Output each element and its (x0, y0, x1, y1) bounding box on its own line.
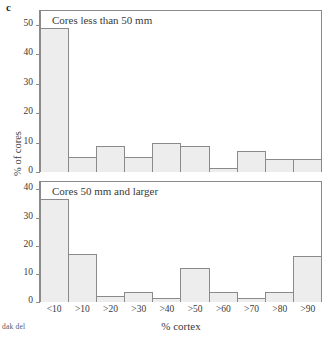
bar (152, 298, 181, 302)
y-tick-label: 30 (24, 77, 34, 87)
bar (68, 254, 97, 302)
x-axis-tick-labels: <10>10>20>30>40>50>60>70>80>90 (40, 304, 322, 314)
bar (293, 159, 322, 172)
x-tick-label: >40 (153, 304, 181, 314)
bar-series-bottom (40, 181, 322, 302)
x-tick-label: >20 (96, 304, 124, 314)
credit-text: dak del (2, 322, 25, 331)
bar (40, 199, 69, 302)
y-tick-label: 0 (28, 165, 33, 175)
bar (124, 292, 153, 302)
y-tick-label: 0 (28, 295, 33, 305)
x-tick-label: >90 (294, 304, 322, 314)
bar (96, 146, 125, 173)
x-tick-label: >60 (209, 304, 237, 314)
bar (180, 268, 209, 302)
figure-panel-c: c % of cores 01020304050 Cores less than… (0, 0, 324, 338)
y-tick-mark (36, 172, 40, 173)
y-tick-label: 20 (24, 239, 34, 249)
y-axis-top: 01020304050 (0, 10, 40, 172)
bar (237, 151, 266, 172)
chart-panel-top: Cores less than 50 mm (40, 10, 322, 172)
x-tick-label: >50 (181, 304, 209, 314)
bar (293, 256, 322, 302)
bar (180, 146, 209, 173)
x-tick-label: <10 (40, 304, 68, 314)
x-axis-label: % cortex (40, 320, 322, 332)
bar-series-top (40, 10, 322, 172)
bar (124, 157, 153, 172)
y-tick-label: 10 (24, 267, 34, 277)
x-tick-label: >80 (266, 304, 294, 314)
bar (265, 159, 294, 172)
y-tick-mark (36, 302, 40, 303)
bar (96, 296, 125, 302)
y-tick-label: 30 (24, 211, 34, 221)
x-tick-label: >10 (68, 304, 96, 314)
bar (265, 292, 294, 302)
y-tick-label: 40 (24, 182, 34, 192)
y-tick-label: 20 (24, 106, 34, 116)
bar (209, 168, 238, 172)
bar (68, 157, 97, 172)
panel-title-top: Cores less than 50 mm (52, 14, 152, 26)
y-tick-label: 10 (24, 136, 34, 146)
y-axis-bottom: 010203040 (0, 181, 40, 302)
y-tick-label: 40 (24, 47, 34, 57)
bar (209, 292, 238, 302)
y-tick-label: 50 (24, 18, 34, 28)
bar (40, 28, 69, 172)
bar (152, 143, 181, 172)
panel-title-bottom: Cores 50 mm and larger (52, 185, 158, 197)
x-tick-label: >70 (237, 304, 265, 314)
chart-panel-bottom: Cores 50 mm and larger (40, 181, 322, 302)
x-tick-label: >30 (125, 304, 153, 314)
bar (237, 298, 266, 302)
